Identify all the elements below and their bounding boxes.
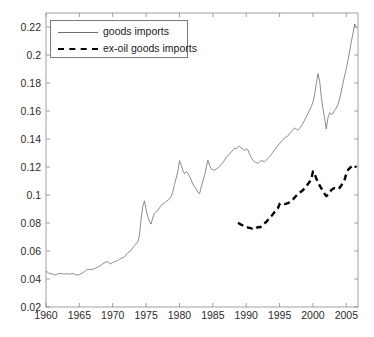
y-tick-label: 0.16 [0, 106, 41, 117]
legend-item-goods-imports: goods imports [51, 23, 187, 40]
y-tick-label: 0.06 [0, 246, 41, 257]
x-tick-label: 1995 [263, 310, 297, 321]
y-tick-label: 0.1 [0, 190, 41, 201]
x-tick-label: 1990 [229, 310, 263, 321]
y-tick-label: 0.12 [0, 162, 41, 173]
legend-line-sample-dashed [58, 48, 98, 50]
y-tick-label: 0.14 [0, 134, 41, 145]
x-tick-label: 1975 [129, 310, 163, 321]
x-tick-label: 2000 [296, 310, 330, 321]
y-tick-label: 0.08 [0, 218, 41, 229]
chart-figure: 0.020.040.060.080.10.120.140.160.180.20.… [0, 0, 374, 337]
x-tick-label: 1960 [29, 310, 63, 321]
legend-line-sample-solid [58, 32, 98, 33]
x-tick-label: 1985 [196, 310, 230, 321]
x-tick-label: 2005 [329, 310, 363, 321]
y-tick-label: 0.2 [0, 50, 41, 61]
legend-item-ex-oil-goods-imports: ex-oil goods imports [51, 40, 187, 57]
chart-legend: goods imports ex-oil goods imports [50, 20, 188, 58]
x-tick-label: 1980 [162, 310, 196, 321]
x-tick-label: 1970 [96, 310, 130, 321]
series-line-goods-imports [46, 24, 356, 275]
series-line-ex-oil-goods-imports [238, 165, 356, 229]
legend-label: goods imports [103, 24, 169, 39]
legend-label: ex-oil goods imports [103, 41, 197, 56]
x-tick-label: 1965 [62, 310, 96, 321]
data-series-group [46, 24, 356, 275]
y-tick-label: 0.22 [0, 22, 41, 33]
y-tick-label: 0.04 [0, 274, 41, 285]
y-tick-label: 0.18 [0, 78, 41, 89]
